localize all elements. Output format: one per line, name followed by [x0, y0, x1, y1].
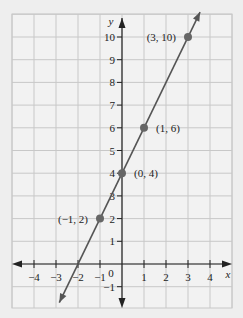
y-tick-label: 4 [110, 167, 116, 179]
y-axis-label: y [108, 15, 114, 27]
y-tick-label: 2 [110, 213, 116, 225]
y-tick-label: 6 [110, 122, 116, 134]
data-point [140, 124, 148, 132]
data-point-label: (−1, 2) [58, 213, 88, 226]
origin-label: 0 [108, 267, 114, 279]
data-point [184, 33, 192, 41]
x-tick-label: 3 [185, 271, 191, 283]
x-tick-label: 4 [207, 271, 213, 283]
data-point-label: (1, 6) [156, 122, 180, 135]
data-point-label: (0, 4) [134, 167, 158, 180]
y-tick-label: 7 [110, 99, 116, 111]
data-point-label: (3, 10) [147, 31, 177, 44]
y-tick-label: 8 [110, 76, 116, 88]
x-tick-label: −4 [28, 271, 40, 283]
x-axis-label: x [225, 268, 231, 280]
x-tick-label: 1 [141, 271, 147, 283]
data-point [96, 215, 104, 223]
y-tick-label: 1 [110, 235, 116, 247]
x-tick-label: 2 [163, 271, 169, 283]
y-tick-label: 9 [110, 54, 116, 66]
y-tick-label: −1 [103, 281, 115, 293]
y-tick-label: 10 [104, 31, 116, 43]
x-tick-label: −3 [50, 271, 62, 283]
y-tick-label: 5 [110, 145, 116, 157]
data-point [118, 169, 126, 177]
line-chart: −4−3−2−11234−1123456789100yx (−1, 2)(0, … [0, 0, 243, 318]
